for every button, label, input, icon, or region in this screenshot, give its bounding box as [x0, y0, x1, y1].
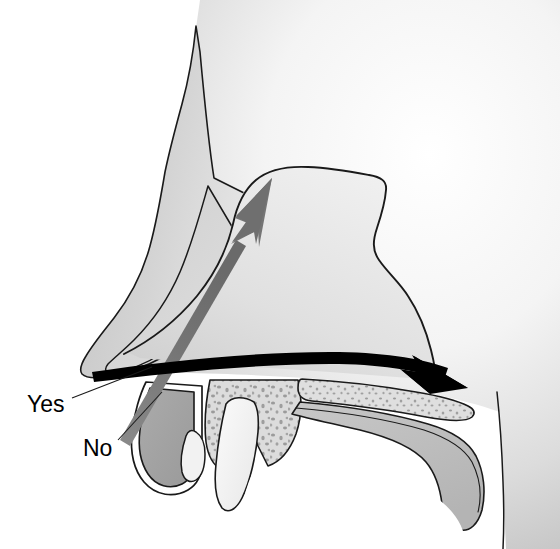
label-no: No — [83, 435, 112, 461]
anatomy-figure: Yes No — [0, 0, 560, 549]
oral-cavity-space — [240, 468, 467, 549]
label-yes: Yes — [27, 391, 65, 417]
oral-cavity-region — [240, 468, 467, 549]
adjacent-tooth-crown — [181, 431, 205, 482]
nasal-cavity-diagram: Yes No — [0, 0, 560, 549]
text-labels: Yes No — [27, 391, 112, 461]
